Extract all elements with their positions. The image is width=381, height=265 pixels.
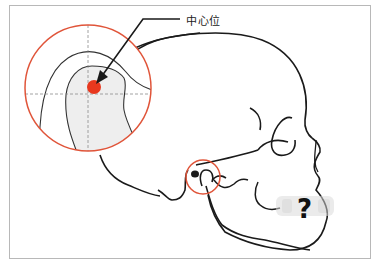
skull-diagram: ? (0, 0, 381, 265)
eye-orbit (272, 117, 296, 155)
ear-canal (191, 171, 199, 178)
zygomatic-arch (250, 108, 288, 150)
connector-line-bottom (100, 148, 115, 168)
connector-line-top (134, 33, 200, 52)
mandible (206, 186, 310, 250)
skull-cranium-outline (135, 33, 312, 138)
question-mark-icon: ? (297, 194, 312, 224)
skull-occiput (100, 155, 188, 200)
callout-label: 中心位 (186, 12, 221, 28)
arch-line (196, 150, 258, 165)
mandible-condyle-small (200, 170, 226, 186)
